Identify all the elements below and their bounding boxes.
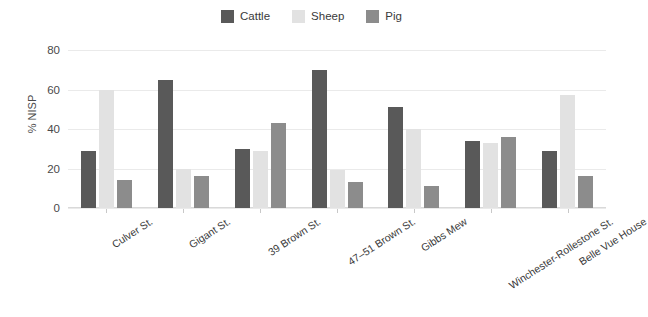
bar-cattle[interactable] (81, 151, 96, 208)
bar-cattle[interactable] (312, 70, 327, 208)
x-label-cell: 39 Brown St. (222, 209, 299, 309)
x-tick-mark (106, 209, 107, 213)
bar-cattle[interactable] (542, 151, 557, 208)
x-tick-mark (260, 209, 261, 213)
y-tick-label: 20 (47, 163, 60, 175)
y-tick-label: 80 (47, 44, 60, 56)
legend-swatch-pig (366, 10, 379, 23)
x-label-cell: Belle Vue House (529, 209, 606, 309)
chart-legend: Cattle Sheep Pig (0, 10, 623, 23)
legend-item-pig[interactable]: Pig (366, 10, 402, 23)
legend-swatch-sheep (292, 10, 305, 23)
bar-group (452, 50, 529, 208)
bar-group (68, 50, 145, 208)
bar-group (375, 50, 452, 208)
legend-label-sheep: Sheep (311, 10, 344, 23)
x-tick-mark (337, 209, 338, 213)
bar-pig[interactable] (501, 137, 516, 208)
bar-sheep[interactable] (330, 170, 345, 208)
y-tick-label: 60 (47, 84, 60, 96)
x-label-cell: Culver St. (68, 209, 145, 309)
x-label-cell: Winchester-Rollestone St. (452, 209, 529, 309)
legend-label-pig: Pig (385, 10, 402, 23)
x-label-cell: Gigant St. (145, 209, 222, 309)
bar-pig[interactable] (194, 176, 209, 208)
bar-pig[interactable] (271, 123, 286, 208)
bar-group (222, 50, 299, 208)
bar-sheep[interactable] (560, 95, 575, 208)
y-tick-label: 0 (54, 202, 60, 214)
legend-item-sheep[interactable]: Sheep (292, 10, 344, 23)
bar-sheep[interactable] (483, 143, 498, 208)
bar-pig[interactable] (578, 176, 593, 208)
bar-sheep[interactable] (253, 151, 268, 208)
legend-label-cattle: Cattle (240, 10, 270, 23)
bar-pig[interactable] (117, 180, 132, 208)
bar-groups (68, 50, 606, 208)
legend-swatch-cattle (221, 10, 234, 23)
x-axis-labels: Culver St.Gigant St.39 Brown St.47–51 Br… (68, 209, 606, 309)
y-tick-label: 40 (47, 123, 60, 135)
y-axis-ticks: 020406080 (30, 50, 60, 208)
bar-cattle[interactable] (158, 80, 173, 208)
bar-group (299, 50, 376, 208)
bar-sheep[interactable] (176, 169, 191, 209)
bar-cattle[interactable] (388, 107, 403, 208)
bar-group (529, 50, 606, 208)
bar-pig[interactable] (424, 186, 439, 208)
x-tick-mark (568, 209, 569, 213)
bar-sheep[interactable] (406, 129, 421, 208)
bar-cattle[interactable] (465, 141, 480, 208)
x-tick-mark (491, 209, 492, 213)
bar-pig[interactable] (348, 182, 363, 208)
bar-sheep[interactable] (99, 90, 114, 209)
x-label-cell: Gibbs Mew (375, 209, 452, 309)
x-tick-mark (414, 209, 415, 213)
bar-group (145, 50, 222, 208)
plot-area (68, 50, 606, 208)
x-tick-mark (183, 209, 184, 213)
legend-item-cattle[interactable]: Cattle (221, 10, 270, 23)
bar-cattle[interactable] (235, 149, 250, 208)
x-label-cell: 47–51 Brown St. (299, 209, 376, 309)
